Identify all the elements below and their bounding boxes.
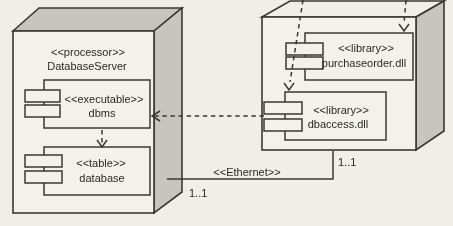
component-body <box>285 92 386 140</box>
component-stereotype-label: <<table>> <box>76 157 126 169</box>
multiplicity-label-left: 1..1 <box>189 187 207 199</box>
component-name-label: dbaccess.dll <box>308 118 369 130</box>
component-database <box>25 147 150 195</box>
component-name-label: database <box>79 172 124 184</box>
multiplicity-label-right: 1..1 <box>338 156 356 168</box>
component-tab-icon <box>25 105 60 117</box>
node-stereotype-label: <<processor>> <box>51 46 125 58</box>
component-stereotype-label: <<library>> <box>313 104 369 116</box>
component-tab-icon <box>264 119 302 131</box>
diagram-canvas: <<processor>> DatabaseServer <<executabl… <box>0 0 453 226</box>
node-name-label: DatabaseServer <box>47 60 127 72</box>
component-stereotype-label: <<library>> <box>338 42 394 54</box>
component-tab-icon <box>286 57 323 69</box>
uml-deployment-diagram: <<processor>> DatabaseServer <<executabl… <box>0 0 453 226</box>
node-right-face <box>154 8 182 213</box>
node-top-face <box>13 8 182 31</box>
component-tab-icon <box>264 102 302 114</box>
node-right-face <box>416 1 444 150</box>
component-tab-icon <box>286 43 323 55</box>
component-stereotype-label: <<executable>> <box>65 93 144 105</box>
component-name-label: dbms <box>89 107 116 119</box>
component-name-label: purchaseorder.dll <box>322 57 406 69</box>
component-tab-icon <box>25 90 60 102</box>
node-top-face <box>262 1 444 17</box>
component-tab-icon <box>25 155 62 167</box>
component-tab-icon <box>25 171 62 183</box>
ethernet-label: <<Ethernet>> <box>213 166 280 178</box>
